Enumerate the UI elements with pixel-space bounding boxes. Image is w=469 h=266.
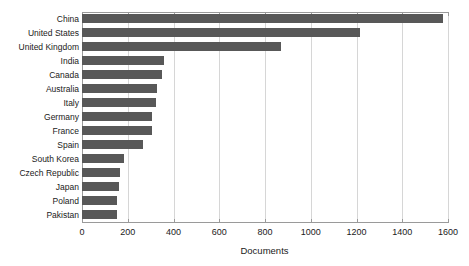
x-tick-label-0: 0 [79, 227, 84, 237]
bar-chart: ChinaUnited StatesUnited KingdomIndiaCan… [0, 0, 469, 266]
y-axis-category-labels: ChinaUnited StatesUnited KingdomIndiaCan… [0, 12, 79, 222]
bar-italy [82, 98, 156, 107]
bar-canada [82, 70, 162, 79]
bar-row [82, 208, 448, 222]
bar-germany [82, 112, 152, 121]
tick-top-1600 [448, 12, 449, 16]
y-axis-label-united-kingdom: United Kingdom [1, 40, 79, 54]
bar-row [82, 26, 448, 40]
bar-row [82, 96, 448, 110]
bar-australia [82, 84, 157, 93]
bar-row [82, 40, 448, 54]
bar-spain [82, 140, 143, 149]
bar-india [82, 56, 164, 65]
y-axis-label-japan: Japan [1, 180, 79, 194]
gridline-1600 [448, 12, 449, 222]
bar-france [82, 126, 152, 135]
plot-area [82, 12, 448, 222]
bar-row [82, 12, 448, 26]
bar-row [82, 110, 448, 124]
y-axis-label-france: France [1, 124, 79, 138]
x-tick-label-600: 600 [212, 227, 227, 237]
bar-pakistan [82, 210, 117, 219]
y-axis-label-poland: Poland [1, 194, 79, 208]
tick-bottom-1600 [448, 219, 449, 223]
bar-south-korea [82, 154, 124, 163]
bar-japan [82, 182, 119, 191]
y-axis-label-czech-republic: Czech Republic [1, 166, 79, 180]
y-axis-label-germany: Germany [1, 110, 79, 124]
bar-row [82, 138, 448, 152]
y-axis-label-india: India [1, 54, 79, 68]
bar-row [82, 54, 448, 68]
bar-united-states [82, 28, 360, 37]
y-axis-label-pakistan: Pakistan [1, 208, 79, 222]
y-axis-label-spain: Spain [1, 138, 79, 152]
bar-row [82, 166, 448, 180]
y-axis-label-australia: Australia [1, 82, 79, 96]
bar-row [82, 180, 448, 194]
x-tick-label-200: 200 [120, 227, 135, 237]
x-axis-title: Documents [0, 245, 469, 256]
x-tick-label-1400: 1400 [392, 227, 412, 237]
bar-china [82, 14, 443, 23]
bar-united-kingdom [82, 42, 281, 51]
x-tick-label-1200: 1200 [346, 227, 366, 237]
x-axis-title-text: Documents [240, 245, 288, 256]
x-tick-label-1600: 1600 [438, 227, 458, 237]
bar-row [82, 152, 448, 166]
bar-row [82, 82, 448, 96]
bar-row [82, 68, 448, 82]
x-tick-label-400: 400 [166, 227, 181, 237]
bar-poland [82, 196, 117, 205]
y-axis-label-china: China [1, 12, 79, 26]
x-tick-label-1000: 1000 [301, 227, 321, 237]
bar-row [82, 124, 448, 138]
y-axis-label-united-states: United States [1, 26, 79, 40]
bar-czech-republic [82, 168, 120, 177]
x-tick-label-800: 800 [257, 227, 272, 237]
bar-row [82, 194, 448, 208]
y-axis-label-south-korea: South Korea [1, 152, 79, 166]
y-axis-label-italy: Italy [1, 96, 79, 110]
y-axis-label-canada: Canada [1, 68, 79, 82]
